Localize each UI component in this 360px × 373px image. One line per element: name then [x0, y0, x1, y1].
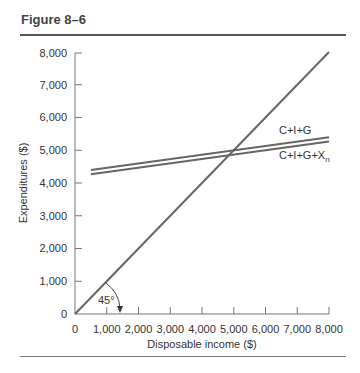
y-tick-label: 7,000: [39, 79, 67, 91]
svg-text:1,000: 1,000: [39, 275, 67, 287]
x-tick-label: 6,000: [252, 323, 280, 335]
svg-text:2,000: 2,000: [39, 242, 67, 254]
svg-text:8,000: 8,000: [315, 323, 343, 335]
svg-text:4,000: 4,000: [39, 177, 67, 189]
arrow-down-icon: [117, 306, 123, 313]
x-tick-label: 0: [72, 323, 78, 335]
bottom-rule: [20, 356, 346, 357]
y-tick-labels: 0 1,000 2,000 3,000 4,000 5,000 6,000 7,…: [39, 47, 67, 320]
svg-text:5,000: 5,000: [220, 323, 248, 335]
y-tick-label: 1,000: [39, 275, 67, 287]
y-tick-label: 4,000: [39, 177, 67, 189]
y-ticks: [75, 85, 82, 282]
line-45-degree: [75, 52, 329, 314]
svg-text:4,000: 4,000: [188, 323, 216, 335]
svg-text:2,000: 2,000: [125, 323, 153, 335]
x-tick-label: 2,000: [125, 323, 153, 335]
svg-text:3,000: 3,000: [156, 323, 184, 335]
x-tick-label: 8,000: [315, 323, 343, 335]
svg-text:6,000: 6,000: [252, 323, 280, 335]
y-tick-label: 6,000: [39, 111, 67, 123]
svg-text:3,000: 3,000: [39, 210, 67, 222]
x-tick-label: 4,000: [188, 323, 216, 335]
x-tick-label: 5,000: [220, 323, 248, 335]
svg-text:6,000: 6,000: [39, 111, 67, 123]
y-tick-label: 8,000: [39, 47, 67, 59]
y-tick-label: 5,000: [39, 144, 67, 156]
y-tick-label: 0: [61, 308, 67, 320]
svg-text:0: 0: [61, 308, 67, 320]
svg-text:8,000: 8,000: [39, 47, 67, 59]
x-tick-labels: 0 1,000 2,000 3,000 4,000 5,000 6,000 7,…: [72, 323, 343, 335]
x-tick-label: 1,000: [93, 323, 121, 335]
x-tick-label: 7,000: [283, 323, 311, 335]
svg-text:1,000: 1,000: [93, 323, 121, 335]
svg-text:5,000: 5,000: [39, 144, 67, 156]
x-tick-label: 3,000: [156, 323, 184, 335]
svg-text:7,000: 7,000: [39, 79, 67, 91]
y-tick-label: 3,000: [39, 210, 67, 222]
y-axis-title: Expenditures ($): [17, 143, 29, 224]
y-tick-label: 2,000: [39, 242, 67, 254]
label-cig: C+I+G: [279, 124, 311, 136]
x-ticks: [107, 307, 329, 314]
svg-text:0: 0: [72, 323, 78, 335]
svg-text:7,000: 7,000: [283, 323, 311, 335]
chart-plot-area: 0 1,000 2,000 3,000 4,000 5,000 6,000 7,…: [0, 0, 360, 373]
x-axis-title: Disposable income ($): [147, 338, 256, 350]
angle-label: 45°: [98, 294, 115, 306]
label-cig-xn: C+I+G+Xn: [279, 149, 330, 164]
